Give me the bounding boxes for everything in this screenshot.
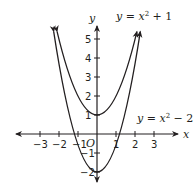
equation-label-upper: y = x2 + 1 [115,10,172,23]
x-tick-label: 1 [113,139,119,150]
x-tick-label: −2 [52,139,67,150]
y-tick-label: 5 [85,34,91,45]
y-tick-label: 3 [85,72,91,83]
y-tick-label: 1 [85,110,91,121]
y-tick-label: 2 [85,91,91,102]
y-tick-label: −1 [80,148,95,159]
x-tick-label: 3 [151,139,157,150]
x-axis-label: x [183,128,190,141]
y-tick-label: 4 [85,53,91,64]
y-tick-label: −2 [80,167,95,178]
x-tick-label: 2 [132,139,138,150]
coordinate-graph: y x O −3 −2 −1 1 2 3 5 4 3 2 1 −1 −2 y =… [0,0,196,195]
equation-label-lower: y = x2 − 2 [136,112,193,125]
y-axis [94,26,100,182]
y-axis-label: y [88,12,96,25]
x-tick-label: −3 [33,139,48,150]
